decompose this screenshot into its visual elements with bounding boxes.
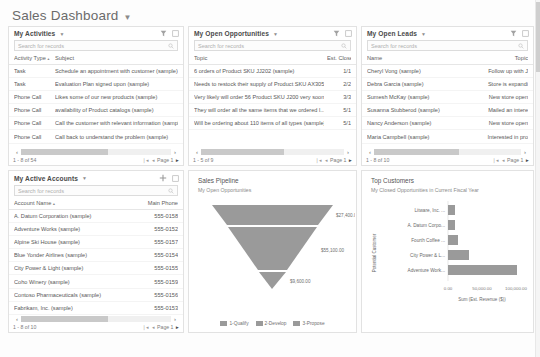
scroll-thumb[interactable] [21, 149, 108, 155]
funnel-segment-2[interactable] [228, 227, 317, 270]
table-row[interactable]: Alpine Ski House (sample)555-0157 [9, 236, 183, 249]
expand-icon[interactable] [172, 175, 179, 182]
table-row[interactable]: Needs to restock their supply of Product… [189, 78, 356, 91]
table-row[interactable]: Coho Winery (sample)555-0159 [9, 275, 183, 288]
table-row[interactable]: Phone CallCall back to understand the pr… [9, 130, 183, 143]
page-prev-icon[interactable]: ◂ [152, 157, 155, 163]
table-row[interactable]: Will be ordering about 110 items of all … [189, 117, 356, 130]
legend-item[interactable]: 3-Propose [293, 321, 324, 326]
filter-icon[interactable] [333, 30, 340, 37]
table-row[interactable]: Phone CallCall the customer with relevan… [9, 117, 183, 130]
search-input[interactable] [198, 43, 341, 49]
page-first-icon[interactable]: ❘◂ [315, 157, 322, 163]
page-next-icon[interactable]: ▸ [176, 324, 179, 330]
search-input[interactable] [18, 43, 168, 49]
page-next-icon[interactable]: ▸ [176, 157, 179, 163]
table-row[interactable]: Blue Yonder Airlines (sample)555-0154 [9, 249, 183, 262]
funnel-chart[interactable]: $27,400.00 $55,100.00 $9,600.00 [189, 193, 356, 319]
expand-icon[interactable] [172, 30, 179, 37]
table-row[interactable]: TaskSchedule an appointment with custome… [9, 65, 183, 78]
page-next-icon[interactable]: ▸ [526, 157, 529, 163]
page-next-icon[interactable]: ▸ [349, 157, 352, 163]
scroll-thumb[interactable] [201, 149, 284, 155]
table-row[interactable]: Adventure Works (sample)555-0152 [9, 223, 183, 236]
table-row[interactable]: Very likely will order 56 Product SKU J2… [189, 91, 356, 104]
dashboard-selector-chevron-down-icon[interactable]: ▼ [124, 13, 132, 22]
bar-chart[interactable]: Potential Customer Litware, Inc. ... A. … [362, 193, 533, 332]
bar[interactable] [448, 220, 455, 230]
table-row[interactable]: Nancy Anderson (sample)New store open [362, 117, 533, 130]
bar[interactable] [448, 205, 455, 215]
page-prev-icon[interactable]: ◂ [325, 157, 328, 163]
scroll-track[interactable] [21, 316, 171, 322]
expand-icon[interactable] [345, 30, 352, 37]
panel-chevron-down-icon[interactable]: ▼ [82, 175, 87, 181]
table-row[interactable]: Maria Campbell (sample)Interested in pro [362, 130, 533, 143]
page-first-icon[interactable]: ❘◂ [142, 324, 149, 330]
funnel-segment-3[interactable] [259, 272, 286, 289]
page-prev-icon[interactable]: ◂ [502, 157, 505, 163]
table-row[interactable]: Fabrikam, Inc. (sample)555-0153 [9, 302, 183, 315]
scroll-track[interactable] [374, 149, 521, 155]
column-header-subject[interactable]: Subject [55, 55, 178, 61]
table-row[interactable]: City Power & Light (sample)555-0155 [9, 262, 183, 275]
bar[interactable] [448, 250, 469, 260]
horizontal-scrollbar[interactable]: ‹ › [193, 148, 352, 156]
legend-item[interactable]: 2-Develop [256, 321, 287, 326]
expand-icon[interactable] [522, 30, 529, 37]
bar[interactable] [448, 235, 458, 245]
scroll-right-icon[interactable]: › [171, 149, 179, 155]
page-scrollbar[interactable] [535, 0, 540, 357]
column-header-topic[interactable]: Topic [194, 55, 324, 61]
table-row[interactable]: Phone Callavailability of Product catalo… [9, 104, 183, 117]
scroll-right-icon[interactable]: › [344, 149, 352, 155]
table-row[interactable]: TaskEvaluation Plan signed upon (sample) [9, 78, 183, 91]
filter-icon[interactable] [510, 30, 517, 37]
column-header-main-phone[interactable]: Main Phone [138, 200, 178, 206]
column-header-activity-type[interactable]: Activity Type [14, 55, 52, 61]
search-accounts[interactable] [14, 185, 178, 196]
add-icon[interactable] [159, 174, 167, 182]
scroll-left-icon[interactable]: ‹ [13, 149, 21, 155]
search-input[interactable] [18, 188, 168, 194]
table-row[interactable]: Debra Garcia (sample)Store is expandi [362, 78, 533, 91]
search-input[interactable] [371, 43, 518, 49]
table-row[interactable]: Cheryl Vong (sample)Follow up with J [362, 65, 533, 78]
funnel-segment-1[interactable] [212, 205, 333, 225]
horizontal-scrollbar[interactable]: ‹ › [13, 315, 179, 323]
legend-item[interactable]: 1-Qualify [220, 321, 248, 326]
bar[interactable] [448, 265, 517, 275]
scroll-track[interactable] [21, 149, 171, 155]
column-header-account-name[interactable]: Account Name [14, 200, 135, 206]
panel-chevron-down-icon[interactable]: ▼ [273, 31, 278, 37]
scroll-left-icon[interactable]: ‹ [13, 316, 21, 322]
table-row[interactable]: 6 orders of Product SKU JJ202 (sample)1/… [189, 65, 356, 78]
filter-icon[interactable] [160, 30, 167, 37]
horizontal-scrollbar[interactable]: ‹ › [13, 148, 179, 156]
column-header-name[interactable]: Name [367, 55, 449, 61]
table-row[interactable]: Phone CallLikes some of our new products… [9, 91, 183, 104]
table-row[interactable]: Susanna Stubberod (sample)Mailed an inte… [362, 104, 533, 117]
table-row[interactable]: Contoso Pharmaceuticals (sample)555-0156 [9, 289, 183, 302]
search-activities[interactable] [14, 40, 178, 51]
page-scroll-thumb[interactable] [536, 2, 540, 72]
page-prev-icon[interactable]: ◂ [152, 324, 155, 330]
table-row[interactable]: A. Datum Corporation (sample)555-0158 [9, 210, 183, 223]
scroll-track[interactable] [201, 149, 344, 155]
scroll-thumb[interactable] [21, 316, 108, 322]
scroll-thumb[interactable] [374, 149, 459, 155]
table-row[interactable]: They will order all the same items that … [189, 104, 356, 117]
table-row[interactable]: Sumesh McKay (sample)New store open [362, 91, 533, 104]
panel-chevron-down-icon[interactable]: ▼ [421, 31, 426, 37]
column-header-topic[interactable]: Topic [452, 55, 528, 61]
scroll-right-icon[interactable]: › [171, 316, 179, 322]
page-first-icon[interactable]: ❘◂ [492, 157, 499, 163]
scroll-right-icon[interactable]: › [521, 149, 529, 155]
panel-chevron-down-icon[interactable]: ▼ [59, 31, 64, 37]
horizontal-scrollbar[interactable]: ‹ › [366, 148, 529, 156]
scroll-left-icon[interactable]: ‹ [366, 149, 374, 155]
page-first-icon[interactable]: ❘◂ [142, 157, 149, 163]
column-header-est-close-date[interactable]: Est. Close Dat [327, 55, 351, 61]
search-opportunities[interactable] [194, 40, 351, 51]
scroll-left-icon[interactable]: ‹ [193, 149, 201, 155]
